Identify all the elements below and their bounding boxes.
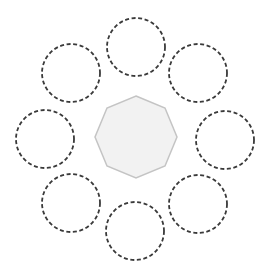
- dashed-circle-left: [16, 110, 74, 168]
- dashed-circle-top-left: [42, 44, 100, 102]
- diagram-canvas: [0, 0, 270, 273]
- dashed-circle-top-right: [169, 44, 227, 102]
- dashed-circle-top: [107, 18, 165, 76]
- dashed-circle-bottom-left: [42, 174, 100, 232]
- dashed-circle-right: [196, 111, 254, 169]
- dashed-circle-bottom-right: [169, 175, 227, 233]
- diagram-svg: [0, 0, 270, 273]
- dashed-circle-bottom: [106, 202, 164, 260]
- center-octagon: [95, 96, 177, 178]
